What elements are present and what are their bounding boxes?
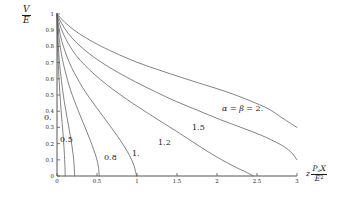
- plot-canvas: 00.511.522.53 00.10.20.30.40.50.60.70.80…: [0, 0, 354, 200]
- curve-label: 1.2: [158, 139, 171, 147]
- x-axis-title: zPoXE2: [306, 165, 327, 183]
- y-tick-label: 0.2: [45, 141, 54, 147]
- curve-label: 0.5: [60, 136, 73, 144]
- x-tick-label: 3: [295, 178, 299, 184]
- y-tick-label: 0.6: [45, 76, 54, 82]
- curve-label: 0.8: [104, 154, 117, 162]
- y-tick-label: 0.1: [45, 157, 54, 163]
- figure-plot: 00.511.522.53 00.10.20.30.40.50.60.70.80…: [0, 0, 354, 200]
- y-axis-title-denominator: E: [22, 16, 31, 26]
- curve-label: α = β = 2.: [222, 105, 263, 113]
- curve-1.: [57, 14, 137, 176]
- x-axis-title-den-sup: 2: [320, 174, 323, 180]
- y-tick-label: 0.3: [45, 124, 54, 130]
- y-axis-title-numerator: V: [22, 5, 31, 16]
- x-tick-label: 0.5: [93, 178, 102, 184]
- y-tick-label: 0.9: [45, 27, 54, 33]
- x-axis-ticks: 00.511.522.53: [55, 173, 299, 184]
- y-axis-title: V E: [22, 5, 31, 26]
- x-tick-label: 1: [135, 178, 138, 184]
- curve-label: 0.: [44, 114, 52, 122]
- x-tick-label: 1.5: [173, 178, 182, 184]
- y-tick-label: 0.7: [45, 60, 54, 66]
- y-tick-label: 0: [51, 173, 55, 179]
- axes-group: [57, 14, 297, 176]
- y-tick-label: 0.5: [45, 92, 54, 98]
- x-tick-label: 2.5: [253, 178, 262, 184]
- data-curves: [57, 14, 297, 176]
- curve-1.5: [57, 14, 297, 160]
- curve-label: 1.: [132, 150, 140, 158]
- x-tick-label: 2: [215, 178, 218, 184]
- x-axis-title-num-tail: X: [321, 164, 326, 173]
- x-tick-label: 0: [55, 178, 59, 184]
- curve-label: 1.5: [192, 124, 205, 132]
- y-tick-label: 1: [51, 11, 54, 17]
- y-tick-label: 0.8: [45, 43, 54, 49]
